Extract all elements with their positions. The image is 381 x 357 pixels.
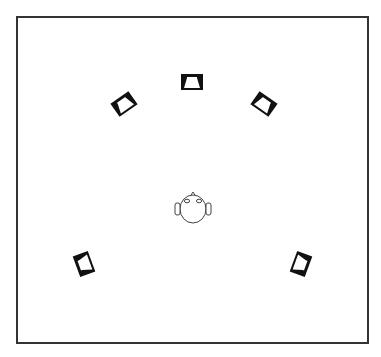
speaker-front-left [110,91,137,117]
speaker-surround-right [290,251,313,277]
speaker-center [181,74,203,90]
listener-head-icon [175,192,211,223]
speaker-layout-diagram [0,0,381,357]
speaker-surround-left [73,251,96,277]
speaker-front-right [250,91,277,117]
